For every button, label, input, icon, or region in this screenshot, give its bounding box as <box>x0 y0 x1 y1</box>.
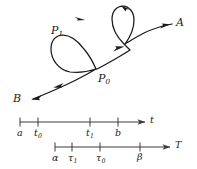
t-axis-label-t0: t0 <box>34 128 42 139</box>
figure-container: P1 P0 A B a t0 t1 b t α τ1 τ0 β T <box>0 0 197 169</box>
t-axis-label-a: a <box>17 128 23 138</box>
T-axis-label-tau1: τ1 <box>68 153 77 164</box>
label-p0: P0 <box>98 73 110 85</box>
T-axis-label-alpha: α <box>52 153 58 163</box>
t-axis-label-b: b <box>115 128 121 138</box>
direction-arrow-left-loop <box>74 17 85 21</box>
label-b: B <box>13 93 21 104</box>
t-axis-group <box>20 118 145 127</box>
t-axis-name: t <box>150 115 154 125</box>
T-axis-label-tau0: τ0 <box>96 153 105 164</box>
t-axis-label-t1: t1 <box>86 128 94 139</box>
T-axis-group <box>55 143 170 152</box>
T-axis-name: T <box>175 140 181 150</box>
direction-arrow-midsegment <box>113 46 124 51</box>
label-p1: P1 <box>51 25 63 37</box>
arrowhead-b <box>31 95 42 100</box>
T-axis-label-beta: β <box>137 152 143 162</box>
label-a: A <box>176 17 184 28</box>
